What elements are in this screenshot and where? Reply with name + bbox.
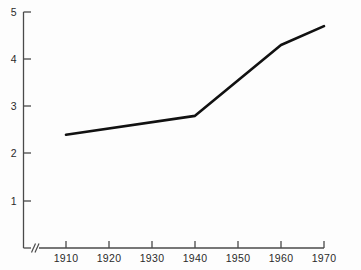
x-tick-label-1940: 1940 xyxy=(175,252,215,264)
y-tick-label-4: 4 xyxy=(1,53,17,65)
x-tick-label-1910: 1910 xyxy=(46,252,86,264)
y-tick-label-1: 1 xyxy=(1,195,17,207)
x-tick-label-1920: 1920 xyxy=(89,252,129,264)
y-tick-label-3: 3 xyxy=(1,100,17,112)
line-chart: 1 2 3 4 5 1910 1920 1930 1940 1950 1960 … xyxy=(0,0,361,270)
x-tick-label-1960: 1960 xyxy=(261,252,301,264)
chart-canvas xyxy=(0,0,361,270)
y-axis-ticks xyxy=(24,12,32,201)
x-axis-ticks xyxy=(66,241,324,248)
x-tick-label-1930: 1930 xyxy=(132,252,172,264)
x-tick-label-1950: 1950 xyxy=(218,252,258,264)
y-tick-label-2: 2 xyxy=(1,147,17,159)
x-tick-label-1970: 1970 xyxy=(304,252,344,264)
y-tick-label-5: 5 xyxy=(1,6,17,18)
axis-break-icon xyxy=(32,244,40,253)
data-series-line xyxy=(66,26,324,135)
